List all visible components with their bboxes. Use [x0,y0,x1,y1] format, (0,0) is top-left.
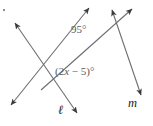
transversal-b-stroke [41,9,132,90]
geometry-figure: 95° (2x − 5)° ℓ m [0,0,153,126]
angle-label-95: 95° [71,24,86,35]
angle-label-expression: (2x − 5)° [55,66,94,77]
artifact-speck [3,9,5,11]
expression-suffix: − 5)° [69,65,94,77]
line-label-m: m [128,97,137,110]
expression-prefix: (2 [55,65,64,77]
line-label-ell: ℓ [58,104,63,117]
